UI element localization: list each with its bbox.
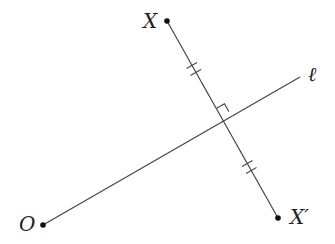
reflection-diagram [0, 0, 335, 244]
label-line-ell: ℓ [308, 64, 316, 84]
segment-x-xprime [167, 21, 278, 218]
label-x-prime: X′ [290, 207, 309, 227]
label-x: X [143, 11, 157, 31]
point-x-prime [275, 215, 281, 221]
label-o: O [19, 214, 35, 234]
line-ell [43, 77, 300, 225]
point-o [40, 222, 46, 228]
right-angle-marker [217, 104, 229, 112]
point-x [164, 18, 170, 24]
